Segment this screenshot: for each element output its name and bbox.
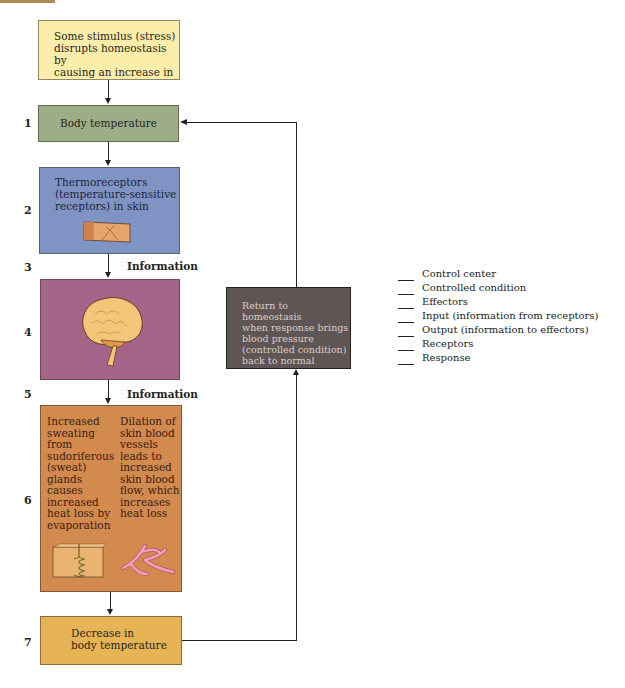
answer-legend: Control center Controlled condition Effe… [398,267,598,365]
return-line: blood pressure [242,333,350,344]
vasodilation-response-text: Dilation of skin blood vessels leads to … [120,416,180,520]
answer-blank[interactable] [398,285,414,295]
text-line: flow, which [120,485,180,497]
legend-item: Control center [398,267,598,281]
page-corner-decoration [0,0,55,3]
return-to-homeostasis-box: Return to homeostasis when response brin… [226,287,351,369]
connector-line [110,592,111,610]
legend-label: Control center [422,267,496,281]
legend-label: Receptors [422,337,473,351]
step-number-5: 5 [24,388,32,401]
connector-line [108,80,109,99]
sweating-response-text: Increased sweating from sudoriferous (sw… [47,416,114,531]
step-number-4: 4 [24,326,32,339]
arrow-left-icon [180,119,187,125]
receptors-line: Thermoreceptors [55,176,179,188]
legend-item: Receptors [398,337,598,351]
stimulus-box: Some stimulus (stress) disrupts homeosta… [38,20,180,80]
receptors-box: Thermoreceptors (temperature-sensitive r… [39,167,180,254]
answer-blank[interactable] [398,313,414,323]
text-line: vessels [120,439,180,451]
response-box: Decrease in body temperature [40,616,182,665]
control-center-box [40,279,180,380]
arrow-up-icon [293,369,299,375]
step-number-7: 7 [24,636,32,649]
answer-blank[interactable] [398,271,414,281]
connector-line [108,380,109,399]
legend-label: Controlled condition [422,281,526,295]
output-information-label: Information [127,388,198,400]
stimulus-line: causing an increase in [54,66,179,78]
answer-blank[interactable] [398,327,414,337]
input-information-label: Information [127,260,198,272]
legend-label: Input (information from receptors) [422,309,598,323]
arrow-down-icon [107,609,113,615]
text-line: increased [120,462,180,474]
text-line: Increased [47,416,114,428]
answer-blank[interactable] [398,299,414,309]
legend-item: Output (information to effectors) [398,323,598,337]
controlled-condition-box: Body temperature [38,105,179,142]
feedback-line [296,122,297,287]
legend-label: Response [422,351,471,365]
text-line: from [47,439,114,451]
blood-vessel-icon [121,544,177,578]
arrow-down-icon [105,160,111,166]
response-line: body temperature [71,639,181,651]
effectors-box: Increased sweating from sudoriferous (sw… [40,405,182,592]
stimulus-line: disrupts homeostasis by [54,42,179,66]
legend-label: Output (information to effectors) [422,323,589,337]
feedback-line [182,640,297,641]
brain-icon [77,294,147,370]
legend-item: Effectors [398,295,598,309]
connector-line [108,254,109,273]
return-line: when response brings [242,322,350,333]
receptors-line: receptors) in skin [55,200,179,212]
return-line: back to normal [242,355,350,366]
arrow-down-icon [105,98,111,104]
text-line: Dilation of [120,416,180,428]
step-number-1: 1 [24,117,32,130]
legend-item: Controlled condition [398,281,598,295]
step-number-2: 2 [24,204,32,217]
stimulus-line: Some stimulus (stress) [54,30,179,42]
return-line: (controlled condition) [242,344,350,355]
connector-line [108,142,109,161]
step-number-6: 6 [24,494,32,507]
answer-blank[interactable] [398,341,414,351]
arrow-down-icon [105,398,111,404]
answer-blank[interactable] [398,355,414,365]
text-line: causes [47,485,114,497]
receptors-line: (temperature-sensitive [55,188,179,200]
response-line: Decrease in [71,627,181,639]
step-number-3: 3 [24,261,32,274]
legend-label: Effectors [422,295,468,309]
text-line: heat loss by [47,508,114,520]
legend-item: Response [398,351,598,365]
feedback-line [296,375,297,641]
legend-item: Input (information from receptors) [398,309,598,323]
text-line: (sweat) [47,462,114,474]
text-line: evaporation [47,520,114,532]
text-line: heat loss [120,508,180,520]
feedback-line [186,122,297,123]
arrow-down-icon [105,272,111,278]
sweat-gland-icon [52,543,106,579]
skin-block-icon [80,220,136,244]
return-line: Return to homeostasis [242,300,350,322]
